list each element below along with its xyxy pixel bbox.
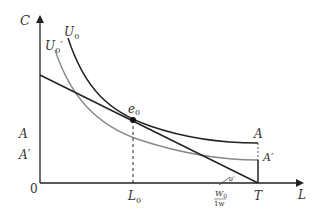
a-right-label: A	[253, 127, 263, 141]
l0-label: L0	[127, 189, 141, 205]
u0-label: U0	[64, 25, 79, 41]
indifference-curve-u0	[68, 38, 258, 143]
w0-denominator: 1w	[214, 200, 224, 208]
a-prime-left-label: A′	[18, 148, 31, 162]
a-left-label: A	[18, 127, 28, 141]
e0-label: e0	[128, 102, 140, 117]
labor-leisure-diagram: C L 0 U0 U0′ e0 A A′ A A′ L0 T W0 1w a′	[0, 0, 322, 217]
a-prime-right-label: A′	[262, 151, 274, 164]
indifference-curve-u0-prime	[55, 50, 258, 160]
u0-prime-label: U0′	[45, 39, 63, 55]
budget-line	[40, 75, 258, 183]
alpha-label: a′	[229, 175, 235, 183]
y-axis-label: C	[20, 13, 30, 28]
w0-numerator: W0	[215, 189, 227, 199]
origin-label: 0	[30, 182, 38, 196]
x-axis-label: L	[297, 188, 306, 202]
t-label: T	[254, 189, 263, 203]
equilibrium-point-e0	[130, 117, 136, 123]
